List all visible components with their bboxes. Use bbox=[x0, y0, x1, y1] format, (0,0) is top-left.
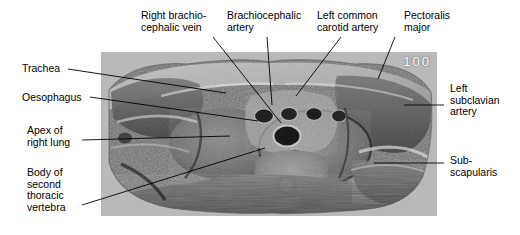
body-cross-section bbox=[101, 52, 437, 216]
anatomy-figure: 100 Right brachio- cephalic vein Brachio… bbox=[0, 0, 520, 235]
label-sub-scapularis: Sub- scapularis bbox=[450, 155, 497, 178]
label-body-of-second-thoracic-vertebra: Body of second thoracic vertebra bbox=[27, 167, 66, 213]
specimen-photo-panel: 100 bbox=[101, 52, 437, 216]
label-trachea: Trachea bbox=[22, 63, 60, 75]
label-brachiocephalic-artery: Brachiocephalic artery bbox=[227, 10, 301, 33]
label-left-common-carotid-artery: Left common carotid artery bbox=[317, 10, 378, 33]
label-left-subclavian-artery: Left subclavian artery bbox=[450, 83, 500, 118]
label-pectoralis-major: Pectoralis major bbox=[404, 10, 450, 33]
label-apex-of-right-lung: Apex of right lung bbox=[27, 125, 70, 148]
label-oesophagus: Oesophagus bbox=[22, 92, 82, 104]
label-right-brachiocephalic-vein: Right brachio- cephalic vein bbox=[141, 10, 206, 33]
thoracic-cross-section-photograph bbox=[101, 52, 437, 216]
figure-number: 100 bbox=[403, 54, 431, 69]
